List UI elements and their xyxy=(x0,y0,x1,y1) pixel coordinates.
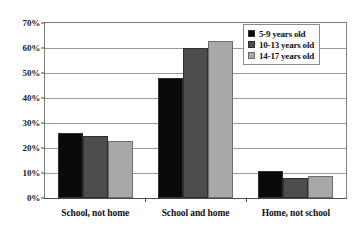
bar-chart: 0%10%20%30%40%50%60%70% School, not home… xyxy=(0,0,359,237)
y-tick-label: 10% xyxy=(23,168,40,178)
bar xyxy=(108,141,133,199)
bar xyxy=(258,171,283,199)
legend-label: 10-13 years old xyxy=(259,40,314,50)
legend-item: 5-9 years old xyxy=(248,28,314,39)
bar xyxy=(58,133,83,198)
x-category-label: Home, not school xyxy=(262,208,330,218)
legend-swatch xyxy=(248,30,255,37)
bar xyxy=(208,41,233,199)
y-tick-label: 20% xyxy=(23,143,40,153)
legend-swatch xyxy=(248,52,255,59)
bar xyxy=(183,48,208,198)
y-tick-label: 30% xyxy=(23,118,40,128)
x-tick-mark xyxy=(246,198,247,202)
x-category-label: School and home xyxy=(162,208,230,218)
y-tick-label: 50% xyxy=(23,68,40,78)
bar xyxy=(283,178,308,198)
y-tick-label: 60% xyxy=(23,43,40,53)
legend-swatch xyxy=(248,41,255,48)
legend-item: 10-13 years old xyxy=(248,39,314,50)
y-tick-label: 0% xyxy=(27,193,40,203)
bar xyxy=(308,176,333,199)
bar xyxy=(158,78,183,198)
legend-label: 5-9 years old xyxy=(259,29,305,39)
y-tick-label: 40% xyxy=(23,93,40,103)
x-tick-mark xyxy=(145,198,146,202)
legend-item: 14-17 years old xyxy=(248,50,314,61)
bar xyxy=(83,136,108,199)
y-tick-label: 70% xyxy=(23,18,40,28)
chart-legend: 5-9 years old10-13 years old14-17 years … xyxy=(243,24,320,65)
legend-label: 14-17 years old xyxy=(259,51,314,61)
x-category-label: School, not home xyxy=(61,208,129,218)
